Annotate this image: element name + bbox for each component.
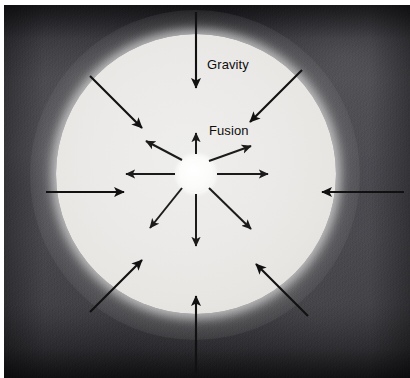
fusion-label: Fusion (209, 124, 249, 138)
gravity-label: Gravity (207, 58, 249, 72)
stellar-core (178, 156, 214, 192)
star-force-balance-figure: Gravity Fusion (0, 0, 410, 378)
